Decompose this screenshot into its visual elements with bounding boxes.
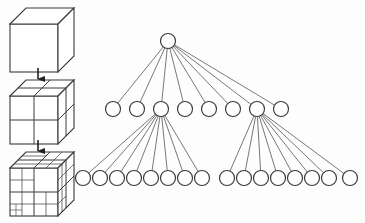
tree-node-g6[interactable] bbox=[161, 171, 176, 186]
tree-node-n1[interactable] bbox=[106, 102, 121, 117]
edge-n3-to-g3 bbox=[121, 115, 157, 171]
cube-subdivision-column bbox=[10, 8, 74, 216]
octree-figure bbox=[0, 0, 365, 223]
tree-node-n4[interactable] bbox=[178, 102, 193, 117]
tree-node-g15[interactable] bbox=[322, 171, 337, 186]
tree-node-g14[interactable] bbox=[305, 171, 320, 186]
tree-node-root[interactable] bbox=[161, 34, 176, 49]
edge-root-to-n8 bbox=[174, 45, 274, 105]
octree-diagram-canvas bbox=[0, 0, 365, 223]
edge-root-to-n2 bbox=[140, 48, 165, 102]
tree-node-g5[interactable] bbox=[144, 171, 159, 186]
tree-node-g16[interactable] bbox=[343, 171, 358, 186]
tree-nodes bbox=[76, 34, 358, 186]
tree-node-g7[interactable] bbox=[178, 171, 193, 186]
tree-node-n5[interactable] bbox=[202, 102, 217, 117]
tree-node-n6[interactable] bbox=[226, 102, 241, 117]
edge-n7-to-g16 bbox=[263, 113, 344, 173]
tree-node-g1[interactable] bbox=[76, 171, 91, 186]
cube-0 bbox=[10, 8, 74, 72]
edge-root-to-n4 bbox=[170, 48, 183, 101]
edge-n7-to-g15 bbox=[262, 114, 323, 173]
edge-n7-to-g13 bbox=[261, 116, 292, 172]
edge-n3-to-g5 bbox=[152, 116, 160, 170]
tree-node-n7[interactable] bbox=[250, 102, 265, 117]
tree-node-g9[interactable] bbox=[220, 171, 235, 186]
edge-root-to-n1 bbox=[118, 47, 164, 103]
edge-n3-to-g2 bbox=[105, 115, 156, 173]
tree-node-g2[interactable] bbox=[93, 171, 108, 186]
edge-root-to-n3 bbox=[162, 48, 167, 101]
edge-n7-to-g14 bbox=[262, 115, 308, 172]
tree-node-g13[interactable] bbox=[288, 171, 303, 186]
tree-node-g11[interactable] bbox=[254, 171, 269, 186]
tree-node-g8[interactable] bbox=[195, 171, 210, 186]
cube-1 bbox=[10, 80, 74, 144]
edge-root-to-n7 bbox=[174, 46, 251, 105]
cube-front-face bbox=[10, 24, 58, 72]
tree-node-g12[interactable] bbox=[271, 171, 286, 186]
edge-n3-to-g8 bbox=[165, 115, 198, 171]
tree-node-n2[interactable] bbox=[130, 102, 145, 117]
tree-node-g4[interactable] bbox=[127, 171, 142, 186]
tree-node-g3[interactable] bbox=[110, 171, 125, 186]
tree-node-n8[interactable] bbox=[274, 102, 289, 117]
edge-n3-to-g1 bbox=[89, 114, 156, 173]
figure-caption bbox=[0, 213, 365, 223]
edge-n7-to-g11 bbox=[257, 116, 260, 170]
tree-node-g10[interactable] bbox=[237, 171, 252, 186]
tree-node-n3[interactable] bbox=[154, 102, 169, 117]
cube-2 bbox=[10, 152, 74, 216]
